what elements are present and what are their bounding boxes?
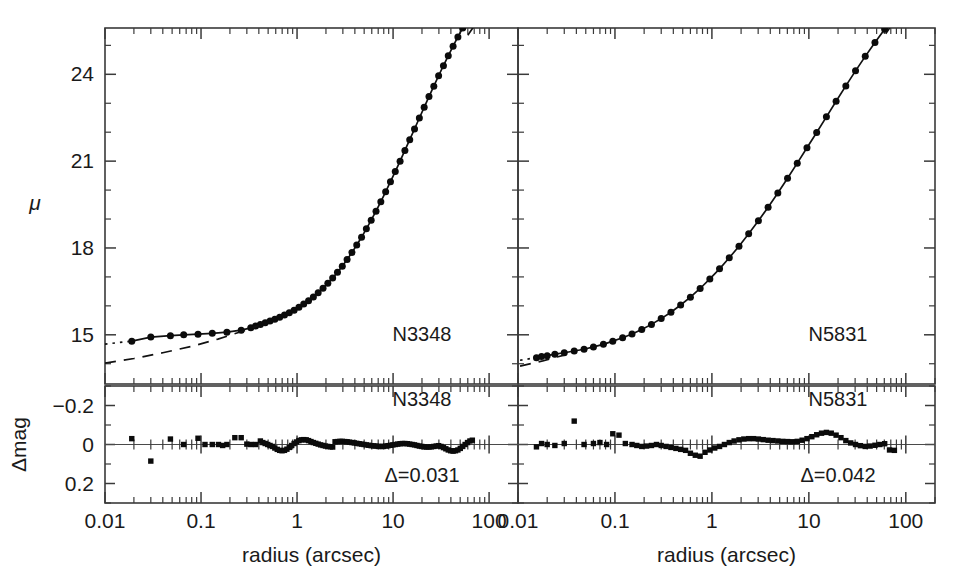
data-point [223,329,230,336]
y-tick-label-main: 21 [71,149,94,172]
residual-point [210,442,215,447]
data-point [697,285,704,292]
residual-point [853,442,858,447]
series-dotted [105,341,132,344]
residual-point [848,440,853,445]
data-point [363,225,370,232]
y-tick-label-main: 24 [71,62,95,85]
data-point [401,147,408,154]
residual-point [610,431,615,436]
y-tick-label-resid: 0 [82,433,94,456]
x-ticks-right-main [518,28,935,384]
data-point [421,104,428,111]
residual-point [867,443,872,448]
data-point [368,217,375,224]
data-point [344,256,351,263]
residual-point [591,441,596,446]
data-point [629,330,636,337]
residual-point [843,438,848,443]
residual-point [572,418,577,423]
residual-point [727,440,732,445]
data-point [862,53,869,60]
delta-label-right-resid: Δ=0.042 [800,464,875,486]
residual-point [892,448,897,453]
data-point [147,334,154,341]
residual-point [673,446,678,451]
residual-point [148,458,153,463]
series-profile-line [132,13,473,341]
residual-point [722,442,727,447]
data-point [726,254,733,261]
residual-point [634,443,639,448]
data-point [416,115,423,122]
data-point [765,204,772,211]
residual-point [824,430,829,435]
residual-point [712,445,717,450]
residual-point [616,432,621,437]
x-ticks-left-main [105,28,518,384]
clipped-series [534,418,897,459]
residual-point [814,432,819,437]
data-point [440,62,447,69]
data-point [464,16,471,23]
x-tick-label: 100 [888,509,923,532]
residual-point [562,441,567,446]
data-point [667,309,674,316]
x-tick-label: 10 [797,509,820,532]
residual-point [168,436,173,441]
residual-point [887,447,892,452]
data-point [891,13,898,20]
data-point [209,330,216,337]
residual-point [195,436,200,441]
residual-point [330,444,335,449]
residual-point [597,440,602,445]
data-point [658,315,665,322]
residual-point [702,450,707,455]
galaxy-label-left: N3348 [393,323,452,345]
y-tick-label-main: 15 [71,323,94,346]
data-point [348,249,355,256]
residual-point [202,442,207,447]
data-point [339,263,346,270]
data-point [450,43,457,50]
series-group-right-main [520,0,931,366]
data-point [677,301,684,308]
delta-label-left-resid: Δ=0.031 [384,464,459,486]
series-group-right-resid [534,418,897,459]
x-tick-label: 0.1 [186,509,215,532]
data-point [459,25,466,32]
residual-point [697,454,702,459]
residual-point [224,442,229,447]
series-group-left-main [105,0,512,363]
residual-point [693,453,698,458]
y-ticks-left-main [105,45,518,363]
residual-point [756,436,761,441]
residual-point [882,441,887,446]
y-axis-title-mu: μ [28,191,41,214]
residual-point [751,436,756,441]
residual-point [683,448,688,453]
residual-point [731,438,736,443]
residual-point [470,438,475,443]
panel-frame-right-main [518,28,935,384]
data-point [648,321,655,328]
data-point [469,9,476,16]
data-point [329,275,336,282]
data-point [871,39,878,46]
residual-point [795,439,800,444]
data-point [794,160,801,167]
residual-point [746,436,751,441]
data-point [387,178,394,185]
data-point [687,294,694,301]
data-point [430,83,437,90]
data-point [716,265,723,272]
data-point [353,242,360,249]
residual-point [238,435,243,440]
residual-point [604,442,609,447]
clipped-series [105,0,512,363]
residual-point [539,441,544,446]
residual-point [649,443,654,448]
galaxy-label-left-resid: N3348 [393,388,452,410]
y-tick-label-resid: −0.2 [53,394,94,417]
residual-point [838,435,843,440]
